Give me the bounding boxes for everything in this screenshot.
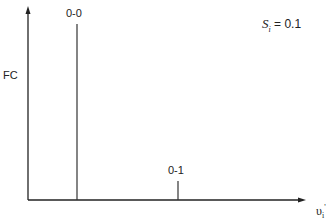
x-axis-subscript: i xyxy=(322,211,324,220)
x-axis-arrow-icon xyxy=(298,198,306,203)
bar-label-0-1: 0-1 xyxy=(168,164,184,176)
x-axis-prime: ' xyxy=(324,203,325,212)
bar-label-0-0: 0-0 xyxy=(66,7,82,19)
y-axis-label: FC xyxy=(3,69,18,81)
annotation-value: = 0.1 xyxy=(271,17,301,31)
annotation-si: Si = 0.1 xyxy=(262,16,301,34)
y-axis-arrow-icon xyxy=(26,6,31,14)
x-axis-label: υi' xyxy=(316,203,326,220)
